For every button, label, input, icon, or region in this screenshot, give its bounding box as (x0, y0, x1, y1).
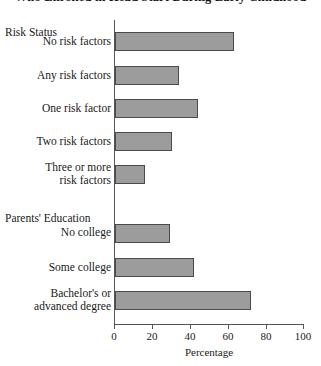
x-axis-label: Percentage (114, 346, 304, 358)
x-tick-mark-100 (303, 325, 304, 329)
x-axis-line (114, 324, 304, 325)
bar-two-risk-factors (115, 132, 172, 151)
chart-figure: Who Enrolled in Head Start During Early … (0, 0, 321, 366)
plot-area: Risk Status Parents' Education No risk f… (0, 0, 321, 366)
category-label-any-risk-factors: Any risk factors (37, 69, 111, 82)
category-label-some-college: Some college (49, 261, 111, 274)
bar-bachelors-or-advanced-degree (115, 291, 251, 310)
category-label-no-college: No college (61, 226, 111, 239)
bar-no-college (115, 224, 170, 243)
bar-some-college (115, 258, 194, 277)
x-tick-mark-0 (114, 325, 115, 329)
x-tick-label-0: 0 (97, 330, 131, 343)
x-tick-label-100: 100 (286, 330, 320, 343)
bar-any-risk-factors (115, 66, 179, 85)
x-tick-mark-20 (152, 325, 153, 329)
x-tick-label-40: 40 (173, 330, 207, 343)
x-tick-label-60: 60 (211, 330, 245, 343)
group-heading-parents-education: Parents' Education (5, 212, 90, 225)
x-tick-label-80: 80 (249, 330, 283, 343)
bar-no-risk-factors (115, 32, 234, 51)
category-label-three-or-more-risk-factors: Three or more risk factors (45, 161, 111, 187)
category-label-two-risk-factors: Two risk factors (36, 135, 111, 148)
x-tick-mark-80 (266, 325, 267, 329)
category-label-one-risk-factor: One risk factor (42, 102, 111, 115)
bar-three-or-more-risk-factors (115, 165, 145, 184)
category-label-bachelors-or-advanced-degree: Bachelor's or advanced degree (34, 287, 111, 313)
category-label-no-risk-factors: No risk factors (43, 35, 111, 48)
bar-one-risk-factor (115, 99, 198, 118)
x-tick-label-20: 20 (135, 330, 169, 343)
x-tick-mark-40 (190, 325, 191, 329)
x-tick-mark-60 (228, 325, 229, 329)
